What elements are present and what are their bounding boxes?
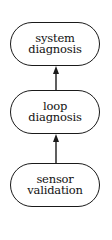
node-label-line: diagnosis bbox=[28, 112, 81, 123]
node-label-line: diagnosis bbox=[28, 44, 81, 55]
node-label-line: validation bbox=[27, 185, 83, 196]
arrow-sensor-to-loop bbox=[53, 134, 59, 163]
arrow-loop-to-system bbox=[53, 66, 59, 90]
node-sensor-validation: sensor validation bbox=[10, 163, 100, 207]
node-loop-diagnosis: loop diagnosis bbox=[10, 90, 100, 134]
node-system-diagnosis: system diagnosis bbox=[10, 22, 100, 66]
